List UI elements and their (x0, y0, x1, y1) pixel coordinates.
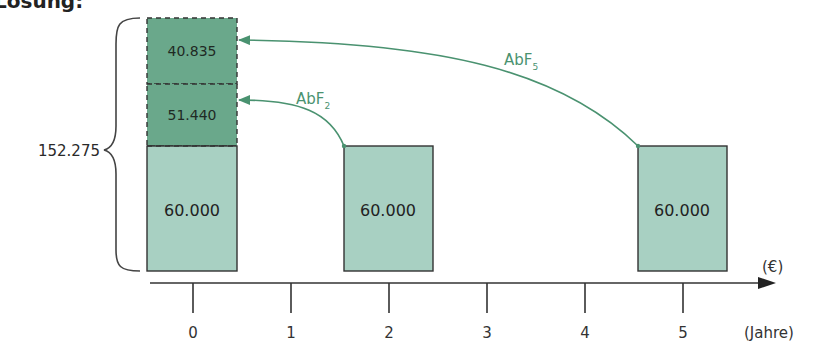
bar-value-2: 60.000 (360, 201, 416, 220)
tick-label-0: 0 (188, 324, 198, 342)
bar-value-0: 60.000 (164, 201, 220, 220)
abf2-label: AbF2 (296, 90, 330, 111)
tick-label-3: 3 (482, 324, 492, 342)
axis-arrow-icon (758, 277, 776, 289)
tick-label-1: 1 (286, 324, 296, 342)
tick-label-2: 2 (384, 324, 394, 342)
heading: Lösung: (0, 0, 83, 13)
axis-ticks (193, 283, 683, 313)
cash-flow-diagram: Lösung: 152.275 40.835 51.440 60.000 60.… (0, 0, 815, 364)
x-unit-label: (Jahre) (744, 324, 794, 342)
brace-icon (104, 18, 140, 271)
total-label: 152.275 (38, 142, 100, 160)
bar-value-5: 60.000 (654, 201, 710, 220)
abf5-label: AbF5 (504, 51, 538, 72)
tick-label-4: 4 (580, 324, 590, 342)
discounted-value-2: 51.440 (168, 107, 217, 123)
y-unit-label: (€) (762, 258, 783, 276)
discounted-value-5: 40.835 (168, 43, 217, 59)
tick-label-5: 5 (678, 324, 688, 342)
